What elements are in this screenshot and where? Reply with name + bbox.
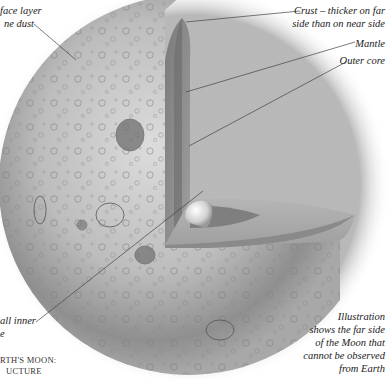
label-inner-core-line2: e [0, 327, 36, 340]
note-line2: shows the far side [303, 323, 385, 336]
figure-caption: RTH'S MOON: UCTURE [0, 355, 57, 377]
caption-line2: UCTURE [0, 366, 57, 377]
label-crust-line2: side than on near side [292, 17, 385, 30]
note-line1: Illustration [303, 310, 385, 323]
caption-line1: RTH'S MOON: [0, 355, 57, 366]
label-mantle: Mantle [355, 37, 385, 50]
label-surface-line1: face layer [0, 4, 42, 17]
label-surface-layer: face layer ne dust [0, 4, 42, 30]
label-inner-core-line1: all inner [0, 314, 36, 327]
note-line3: of the Moon that [303, 336, 385, 349]
label-inner-core: all inner e [0, 314, 36, 340]
label-crust-line1: Crust – thicker on far [292, 4, 385, 17]
label-crust: Crust – thicker on far side than on near… [292, 4, 385, 30]
moon-structure-diagram: face layer ne dust Crust – thicker on fa… [0, 0, 389, 380]
label-surface-line2: ne dust [0, 17, 42, 30]
label-outer-core: Outer core [340, 54, 385, 67]
note-line4: cannot be observed [303, 349, 385, 362]
note-line5: from Earth [303, 362, 385, 375]
note-far-side: Illustration shows the far side of the M… [303, 310, 385, 375]
